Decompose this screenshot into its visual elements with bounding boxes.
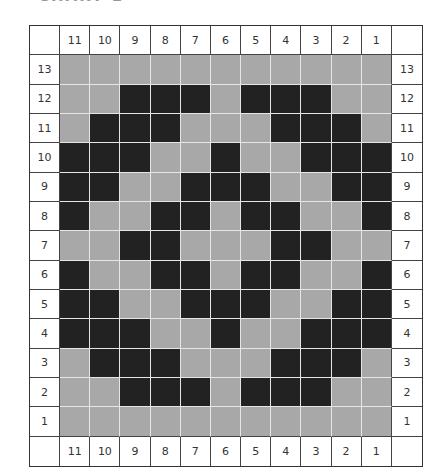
stitch-dark [181, 290, 211, 319]
stitch-dark [151, 231, 181, 260]
stitch-light [362, 55, 392, 84]
row-label-right: 13 [392, 55, 422, 84]
row-label-left: 2 [30, 378, 60, 407]
stitch-dark [60, 173, 90, 202]
row-label-left: 9 [30, 173, 60, 202]
stitch-dark [181, 378, 211, 407]
stitch-light [211, 349, 241, 378]
stitch-light [211, 55, 241, 84]
column-label-top: 6 [211, 26, 241, 55]
stitch-dark [271, 261, 301, 290]
stitch-light [120, 261, 150, 290]
column-label-bottom: 9 [120, 437, 150, 466]
stitch-dark [332, 173, 362, 202]
stitch-dark [362, 143, 392, 172]
row-label-right: 8 [392, 202, 422, 231]
stitch-dark [60, 290, 90, 319]
stitch-light [120, 173, 150, 202]
stitch-light [362, 231, 392, 260]
stitch-light [332, 378, 362, 407]
row-label-right: 6 [392, 261, 422, 290]
stitch-dark [332, 349, 362, 378]
stitch-dark [151, 202, 181, 231]
stitch-dark [151, 378, 181, 407]
stitch-light [211, 85, 241, 114]
stitch-light [120, 202, 150, 231]
stitch-light [301, 55, 331, 84]
row-label-left: 7 [30, 231, 60, 260]
stitch-dark [362, 319, 392, 348]
stitch-dark [151, 114, 181, 143]
stitch-dark [241, 290, 271, 319]
stitch-light [60, 378, 90, 407]
stitch-light [181, 55, 211, 84]
stitch-light [271, 319, 301, 348]
stitch-dark [301, 378, 331, 407]
stitch-light [241, 349, 271, 378]
stitch-light [181, 143, 211, 172]
stitch-dark [271, 85, 301, 114]
column-label-bottom: 7 [181, 437, 211, 466]
stitch-dark [90, 319, 120, 348]
column-label-top: 2 [332, 26, 362, 55]
stitch-light [90, 407, 120, 436]
stitch-dark [241, 85, 271, 114]
stitch-dark [181, 85, 211, 114]
stitch-light [271, 290, 301, 319]
stitch-dark [90, 173, 120, 202]
column-label-bottom: 10 [90, 437, 120, 466]
column-label-bottom: 5 [241, 437, 271, 466]
column-label-top: 1 [362, 26, 392, 55]
stitch-light [211, 407, 241, 436]
stitch-light [151, 290, 181, 319]
row-label-right: 9 [392, 173, 422, 202]
stitch-dark [120, 319, 150, 348]
stitch-dark [241, 202, 271, 231]
stitch-light [332, 261, 362, 290]
stitch-dark [241, 378, 271, 407]
stitch-light [211, 114, 241, 143]
column-label-bottom: 11 [60, 437, 90, 466]
stitch-dark [271, 231, 301, 260]
row-label-left: 5 [30, 290, 60, 319]
stitch-light [120, 290, 150, 319]
stitch-light [241, 114, 271, 143]
stitch-dark [211, 143, 241, 172]
chart-title-clipped: CHART 1 [38, 0, 124, 4]
stitch-dark [211, 173, 241, 202]
row-label-right: 1 [392, 407, 422, 436]
row-label-left: 13 [30, 55, 60, 84]
stitch-light [90, 261, 120, 290]
row-label-left: 1 [30, 407, 60, 436]
stitch-light [332, 407, 362, 436]
column-label-top: 9 [120, 26, 150, 55]
chart-title: CHART 1 [38, 0, 124, 4]
stitch-light [332, 85, 362, 114]
stitch-dark [362, 261, 392, 290]
stitch-dark [332, 114, 362, 143]
stitch-dark [301, 231, 331, 260]
column-label-top: 11 [60, 26, 90, 55]
stitch-light [271, 407, 301, 436]
stitch-dark [301, 114, 331, 143]
row-label-left: 12 [30, 85, 60, 114]
stitch-light [151, 319, 181, 348]
stitch-dark [211, 290, 241, 319]
stitch-dark [271, 349, 301, 378]
row-label-right: 12 [392, 85, 422, 114]
stitch-dark [181, 202, 211, 231]
stitch-light [90, 378, 120, 407]
column-label-top: 8 [151, 26, 181, 55]
stitch-dark [120, 349, 150, 378]
stitch-light [181, 319, 211, 348]
stitch-light [332, 202, 362, 231]
stitch-dark [301, 349, 331, 378]
stitch-light [120, 407, 150, 436]
stitch-dark [60, 143, 90, 172]
stitch-light [181, 407, 211, 436]
row-label-left: 3 [30, 349, 60, 378]
stitch-light [271, 143, 301, 172]
stitch-dark [120, 143, 150, 172]
stitch-dark [362, 202, 392, 231]
corner-cell [392, 26, 422, 55]
